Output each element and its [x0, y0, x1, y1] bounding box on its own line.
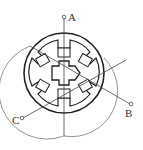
terminal-c — [20, 116, 24, 120]
terminal-a — [62, 15, 66, 19]
pole-lower-left — [36, 79, 50, 92]
label-phase-c: C — [12, 114, 19, 126]
pole-upper-left — [36, 54, 50, 67]
label-phase-a: A — [68, 11, 76, 23]
stepper-motor-diagram: A B C — [0, 0, 143, 150]
label-phase-b: B — [125, 107, 132, 119]
terminal-b — [129, 102, 133, 106]
pole-upper-right — [78, 54, 92, 67]
